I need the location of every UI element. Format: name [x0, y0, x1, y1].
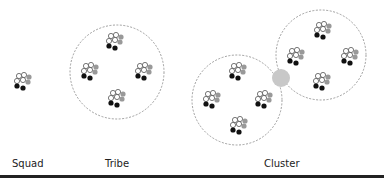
bottom-rule: [0, 175, 384, 178]
cluster-group: [192, 10, 366, 145]
label-tribe: Tribe: [105, 158, 129, 169]
label-squad: Squad: [12, 158, 44, 169]
squad-tribe-cluster-diagram: Squad Tribe Cluster: [0, 0, 384, 181]
squad-group: [14, 72, 31, 90]
overlap-node: [272, 69, 290, 87]
diagram-canvas: [0, 0, 384, 181]
label-cluster: Cluster: [264, 158, 300, 169]
tribe-group: [70, 25, 164, 119]
